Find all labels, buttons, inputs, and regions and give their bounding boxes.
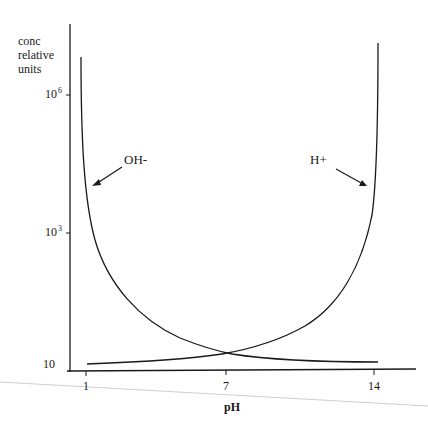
y-axis-label: conc relative units bbox=[18, 34, 54, 76]
y-tick-1e6-exp: 6 bbox=[58, 86, 62, 95]
y-tick-1e3-base: 10 bbox=[45, 225, 57, 239]
oh-curve bbox=[81, 57, 378, 362]
x-axis bbox=[67, 369, 416, 371]
oh-arrow-line bbox=[96, 167, 122, 184]
y-tick-1e6-base: 10 bbox=[45, 87, 57, 101]
y-tick-label-10: 10 bbox=[5, 357, 55, 372]
y-tick-1e3-exp: 3 bbox=[58, 224, 62, 233]
x-tick-label-1: 1 bbox=[71, 379, 101, 394]
annotation-oh: OH- bbox=[124, 152, 147, 168]
y-tick-label-1e6: 106 bbox=[12, 86, 62, 102]
y-axis-label-line1: conc bbox=[18, 34, 54, 48]
h-curve bbox=[87, 43, 378, 364]
y-axis-label-line3: units bbox=[18, 62, 54, 76]
h-arrow-line bbox=[336, 169, 363, 184]
x-tick-label-7: 7 bbox=[211, 379, 241, 394]
x-tick-label-14: 14 bbox=[359, 379, 389, 394]
chart-plot bbox=[0, 0, 428, 426]
y-axis-label-line2: relative bbox=[18, 48, 54, 62]
annotation-h: H+ bbox=[310, 152, 327, 168]
oh-arrow-head-icon bbox=[92, 179, 101, 186]
x-axis-label: pH bbox=[212, 400, 252, 415]
y-tick-label-1e3: 103 bbox=[12, 224, 62, 240]
